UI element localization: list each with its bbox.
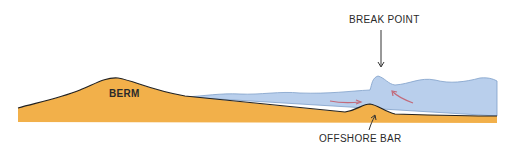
beach-profile-diagram	[0, 0, 509, 151]
break-point-label: BREAK POINT	[349, 14, 420, 25]
offshore-bar-label: OFFSHORE BAR	[319, 133, 402, 144]
berm-label: BERM	[109, 88, 140, 99]
